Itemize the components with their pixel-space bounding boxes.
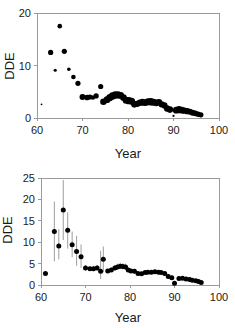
y-tick-label: 25 (23, 172, 35, 184)
data-point (56, 244, 61, 249)
chart-panel-top: 0102060708090100 Year DDE (0, 0, 235, 164)
x-tick-label: 70 (79, 291, 91, 303)
y-tick-label: 0 (29, 279, 35, 291)
data-point (65, 228, 70, 233)
data-point (199, 280, 204, 285)
chart-svg-top: 0102060708090100 Year DDE (0, 0, 235, 164)
data-point (71, 75, 76, 80)
y-tick-label: 10 (23, 236, 35, 248)
data-point (101, 257, 106, 262)
data-point (172, 281, 177, 286)
data-point (70, 242, 75, 247)
data-point (48, 50, 53, 55)
x-tick-label: 80 (124, 291, 136, 303)
chart-svg-bottom: 051015202560708090100 Year DDE (0, 164, 235, 328)
x-axis-title-top: Year (115, 146, 142, 161)
data-point (54, 69, 57, 72)
data-point (67, 67, 71, 71)
x-tick-label: 60 (35, 291, 47, 303)
data-point (52, 229, 57, 234)
data-point (61, 208, 66, 213)
y-axis-title-top: DDE (2, 52, 17, 80)
data-point (198, 112, 203, 117)
plot-area-bottom (43, 180, 204, 286)
data-point (74, 249, 79, 254)
x-tick-label: 90 (167, 124, 179, 136)
x-tick-label: 80 (122, 124, 134, 136)
x-tick-label: 100 (210, 291, 228, 303)
y-tick-label: 20 (23, 193, 35, 205)
data-point (75, 81, 80, 86)
x-tick-label: 100 (210, 124, 228, 136)
data-point (62, 49, 67, 54)
x-axis-title-bottom: Year (115, 310, 142, 325)
data-point (172, 115, 174, 117)
data-point (98, 84, 103, 89)
data-point (169, 275, 174, 280)
x-tick-label: 90 (168, 291, 180, 303)
data-point (98, 269, 103, 274)
plot-area-top (41, 24, 204, 118)
y-tick-label: 5 (29, 258, 35, 270)
x-tick-label: 60 (31, 124, 43, 136)
data-point (94, 93, 99, 98)
data-point (57, 24, 62, 29)
y-tick-label: 20 (19, 7, 31, 19)
data-point (79, 254, 84, 259)
data-point (43, 271, 48, 276)
data-point (41, 103, 43, 105)
y-tick-label: 15 (23, 215, 35, 227)
data-point (83, 265, 88, 270)
dde-year-figure: 0102060708090100 Year DDE 05101520256070… (0, 0, 235, 328)
y-tick-label: 0 (25, 112, 31, 124)
x-tick-label: 70 (76, 124, 88, 136)
y-tick-label: 10 (19, 60, 31, 72)
y-axis-title-bottom: DDE (0, 216, 15, 244)
chart-panel-bottom: 051015202560708090100 Year DDE (0, 164, 235, 328)
data-point (167, 106, 174, 113)
